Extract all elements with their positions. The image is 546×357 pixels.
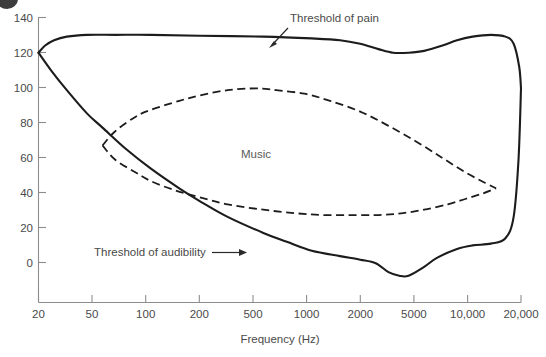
y-tick-label-120: 120 <box>14 47 33 59</box>
y-tick-label-80: 80 <box>20 117 33 129</box>
figure-container: 140 120 100 80 60 40 20 0 20 50 100 200 … <box>0 0 546 357</box>
y-tick-label-100: 100 <box>14 82 33 94</box>
curve-music-lower <box>103 145 497 215</box>
x-tick-label-100: 100 <box>136 308 155 320</box>
y-tick-label-140: 140 <box>14 12 33 24</box>
y-tick-label-0: 0 <box>27 257 33 269</box>
x-tick-label-50: 50 <box>86 308 99 320</box>
x-tick-label-200: 200 <box>190 308 209 320</box>
x-tick-label-20000: 20,000 <box>503 308 538 320</box>
x-tick-label-1000: 1000 <box>294 308 320 320</box>
curve-threshold-of-pain <box>39 35 522 89</box>
leader-arrowhead-audibility <box>239 249 247 256</box>
leader-arrowhead-pain <box>269 41 277 48</box>
curve-music-upper <box>103 88 497 188</box>
x-tick-label-10000: 10,000 <box>450 308 485 320</box>
x-tick-label-500: 500 <box>243 308 262 320</box>
y-tick-label-20: 20 <box>20 222 33 234</box>
y-tick-label-60: 60 <box>20 152 33 164</box>
x-tick-label-2000: 2000 <box>348 308 374 320</box>
annotation-threshold-of-audibility: Threshold of audibility <box>94 246 206 258</box>
x-tick-label-20: 20 <box>32 308 45 320</box>
chart-plot: 140 120 100 80 60 40 20 0 20 50 100 200 … <box>0 0 546 357</box>
y-tick-label-40: 40 <box>20 187 33 199</box>
annotation-threshold-of-pain: Threshold of pain <box>290 12 379 24</box>
label-music-region: Music <box>241 148 271 160</box>
curve-threshold-of-audibility <box>39 53 522 277</box>
x-axis-title: Frequency (Hz) <box>240 333 319 345</box>
x-tick-group <box>39 295 522 303</box>
x-tick-label-5000: 5000 <box>401 308 427 320</box>
